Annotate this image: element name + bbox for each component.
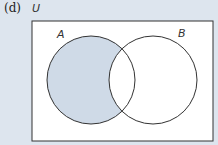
set-a-label: A (56, 28, 65, 41)
venn-diagram: A B (0, 0, 218, 145)
set-b-label: B (178, 27, 186, 40)
